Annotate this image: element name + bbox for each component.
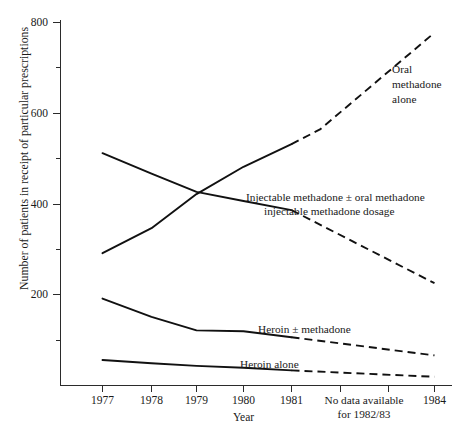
annotation-oral-line-2: methadone (392, 78, 442, 90)
annotation-oral-line-3: alone (392, 93, 416, 105)
no-data-note-line2: for 1982/83 (337, 408, 390, 420)
annotation-heroin-plus-methadone: Heroin ± methadone (258, 323, 351, 335)
series-heroin-alone-dashed (292, 370, 435, 376)
y-axis-title: Number of patients in receipt of particu… (17, 27, 31, 290)
x-tick-label-1979: 1979 (185, 394, 208, 406)
y-tick-label-800: 800 (31, 16, 49, 28)
chart-container: 800 600 400 200 Number of patients in re… (0, 0, 460, 427)
annotation-oral-line-1: Oral (392, 63, 412, 75)
series-injectable-methadone-dashed (292, 210, 435, 283)
x-tick-label-1978: 1978 (140, 394, 163, 406)
y-tick-label-600: 600 (31, 107, 49, 119)
no-data-note-line1: No data available (324, 394, 403, 406)
annotation-injectable-line-2: injectable methadone dosage (264, 205, 395, 217)
annotation-oral-methadone-alone: Oral methadone alone (392, 63, 442, 105)
x-tick-label-1984: 1984 (423, 394, 446, 406)
annotation-injectable-line-1: Injectable methadone ± oral methadone (246, 191, 425, 203)
x-tick-label-1977: 1977 (91, 394, 114, 406)
x-axis (61, 386, 453, 393)
x-tick-label-1981: 1981 (280, 394, 303, 406)
y-tick-label-400: 400 (31, 198, 49, 210)
annotation-heroin-alone: Heroin alone (240, 358, 299, 370)
annotation-injectable-methadone: Injectable methadone ± oral methadone in… (246, 191, 425, 217)
series-injectable-methadone (103, 153, 435, 283)
y-tick-label-200: 200 (31, 288, 49, 300)
series-heroin-plus-methadone-dashed (292, 337, 435, 355)
x-tick-label-1980: 1980 (232, 394, 255, 406)
x-axis-title: Year (233, 411, 254, 423)
line-chart: 800 600 400 200 Number of patients in re… (0, 0, 460, 427)
series-oral-methadone-alone (103, 33, 435, 254)
y-axis (53, 20, 61, 386)
